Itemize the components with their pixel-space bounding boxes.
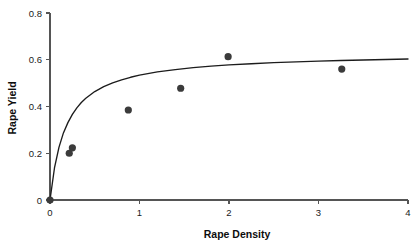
y-axis-tick-labels: 00.20.40.60.8 xyxy=(29,8,42,206)
y-tick-label: 0.8 xyxy=(29,8,42,19)
x-tick-label: 0 xyxy=(47,207,52,218)
y-tick-label: 0 xyxy=(37,195,42,206)
x-axis-title: Rape Density xyxy=(204,228,271,240)
y-tick-label: 0.4 xyxy=(29,101,42,112)
chart-figure: 00.20.40.60.8 01234 Rape Density Rape Yi… xyxy=(0,0,418,244)
data-point xyxy=(46,196,53,203)
x-axis-tick-labels: 01234 xyxy=(47,207,410,218)
x-tick-label: 2 xyxy=(226,207,231,218)
y-axis-ticks xyxy=(46,13,50,200)
data-point xyxy=(177,85,184,92)
data-point xyxy=(125,106,132,113)
data-points xyxy=(46,53,345,203)
x-tick-label: 3 xyxy=(316,207,321,218)
x-axis-ticks xyxy=(50,200,408,204)
x-tick-label: 1 xyxy=(137,207,142,218)
y-axis-title: Rape Yield xyxy=(6,81,18,134)
data-point xyxy=(225,53,232,60)
y-tick-label: 0.2 xyxy=(29,148,42,159)
data-point xyxy=(338,66,345,73)
y-tick-label: 0.6 xyxy=(29,54,42,65)
data-point xyxy=(69,144,76,151)
scatter-plot: 00.20.40.60.8 01234 Rape Density Rape Yi… xyxy=(0,0,418,244)
x-tick-label: 4 xyxy=(405,207,410,218)
fitted-curve xyxy=(50,59,408,200)
